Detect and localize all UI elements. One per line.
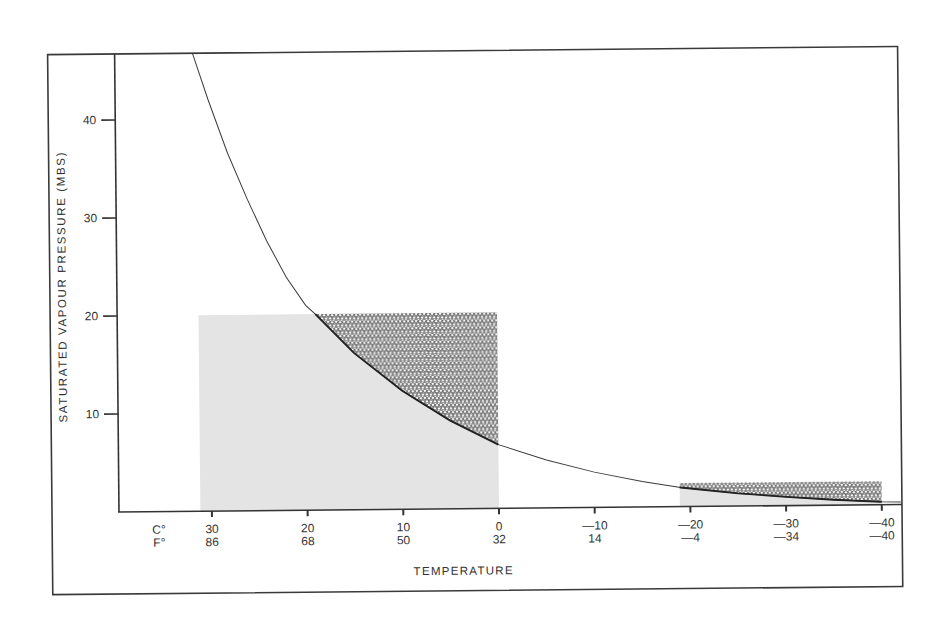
x-axis-ticks: 308620681050032—1014—20—4—30—34—40—40 xyxy=(205,505,895,550)
x-tick-label-celsius: 0 xyxy=(496,519,503,533)
x-tick-label-fahrenheit: 32 xyxy=(493,532,507,546)
y-tick-label: 40 xyxy=(83,113,97,127)
y-tick-label: 10 xyxy=(86,407,100,421)
x-tick-label-fahrenheit: 14 xyxy=(588,531,602,545)
y-axis-title: SATURATED VAPOUR PRESSURE (MBS) xyxy=(55,152,70,422)
x-tick-label-celsius: —10 xyxy=(582,518,608,532)
vapour-pressure-chart: 10203040 308620681050032—1014—20—4—30—34… xyxy=(0,0,947,630)
x-tick-label-celsius: 20 xyxy=(301,521,315,535)
x-tick-label-fahrenheit: 68 xyxy=(301,534,315,548)
y-tick-label: 30 xyxy=(84,211,98,225)
x-tick-label-fahrenheit: 50 xyxy=(397,533,411,547)
x-tick-label-celsius: 10 xyxy=(397,520,411,534)
x-tick-label-fahrenheit: —34 xyxy=(774,529,800,543)
x-tick-label-celsius: 30 xyxy=(205,522,219,536)
shaded-regions xyxy=(199,309,882,512)
celsius-unit-label: C° xyxy=(152,523,166,537)
x-axis-title: TEMPERATURE xyxy=(414,564,513,577)
x-tick-label-fahrenheit: —4 xyxy=(681,530,700,544)
fahrenheit-unit-label: F° xyxy=(153,536,165,550)
x-tick-label-fahrenheit: 86 xyxy=(205,535,219,549)
y-axis xyxy=(115,54,119,512)
y-axis-ticks: 10203040 xyxy=(83,113,118,421)
y-tick-label: 20 xyxy=(85,309,99,323)
x-tick-label-fahrenheit: —40 xyxy=(869,529,895,543)
